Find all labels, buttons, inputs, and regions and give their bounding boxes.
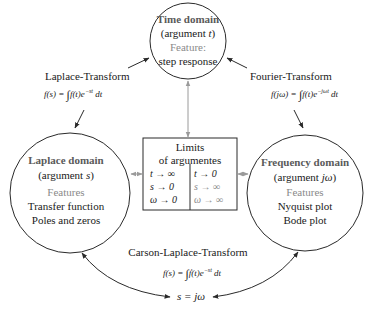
frequency-domain-features-label: Features (286, 187, 323, 198)
limits-right-row: ω → ∞ (194, 195, 223, 205)
formula-rhs: ḟ(t)e (189, 268, 204, 278)
fourier-transform-label: Fourier-Transform (250, 71, 332, 82)
substitution-label: s = jω (177, 291, 205, 302)
laplace-domain-title: Laplace domain (28, 155, 103, 166)
formula-exponent: −jωt (317, 88, 329, 94)
laplace-transform-label: Laplace-Transform (45, 71, 130, 82)
formula-dt: dt (93, 89, 102, 99)
limits-left-row: s → 0 (150, 182, 174, 192)
argument-suffix: ) (90, 169, 94, 181)
laplace-to-time-arrow (128, 58, 149, 68)
laplace-domain-argument: (argument s) (38, 170, 94, 181)
formula-lhs: f(s) = (163, 268, 186, 278)
time-domain-feature: step response (159, 56, 218, 67)
laplace-formula-to-circle-arrow (75, 110, 84, 128)
argument-suffix: ) (212, 27, 216, 39)
formula-dt: dt (212, 268, 221, 278)
carson-laplace-transform-formula: f(s) = ∫ḟ(t)e−st dt (163, 267, 221, 280)
formula-rhs: f(t)e (302, 89, 317, 99)
time-domain-feature-label: Feature: (170, 42, 206, 53)
frequency-domain-argument: (argument jω) (274, 172, 336, 183)
fourier-transform-formula: f(jω) = ∫f(t)e−jωt dt (271, 88, 338, 101)
laplace-domain-feature: Poles and zeros (32, 215, 100, 226)
laplace-transform-formula: f(s) = ∫f(t)e−st dt (44, 88, 102, 101)
argument-symbol: jω (322, 171, 333, 183)
laplace-carson-arc (82, 253, 170, 297)
frequency-domain-title: Frequency domain (261, 157, 349, 168)
carson-laplace-transform-label: Carson-Laplace-Transform (128, 247, 247, 258)
limits-right-row: t → 0 (194, 169, 217, 179)
limits-left-row: t → ∞ (150, 169, 175, 179)
argument-prefix: (argument (274, 171, 322, 183)
limits-title-line2: of argumentes (159, 155, 221, 166)
time-domain-title: Time domain (157, 14, 219, 25)
fourier-formula-to-circle-arrow (294, 110, 303, 128)
frequency-carson-arc (213, 252, 298, 297)
formula-lhs: f(s) = (44, 89, 67, 99)
argument-prefix: (argument (161, 27, 209, 39)
argument-suffix: ) (332, 171, 336, 183)
formula-lhs: f(jω) = (271, 89, 299, 99)
formula-exponent: −st (85, 88, 93, 94)
laplace-domain-features-label: Features (47, 187, 84, 198)
limits-right-row: s → ∞ (194, 182, 220, 192)
fourier-to-time-arrow (227, 58, 247, 68)
frequency-domain-feature: Bode plot (283, 215, 326, 226)
formula-rhs: f(t)e (70, 89, 85, 99)
limits-title-line1: Limits (176, 142, 205, 153)
frequency-domain-feature: Nyquist plot (278, 201, 333, 212)
time-domain-argument: (argument t) (161, 28, 216, 39)
formula-exponent: −st (204, 267, 212, 273)
limits-left-row: ω → 0 (150, 195, 177, 205)
laplace-domain-feature: Transfer function (28, 201, 104, 212)
argument-prefix: (argument (38, 169, 86, 181)
formula-dt: dt (329, 89, 338, 99)
